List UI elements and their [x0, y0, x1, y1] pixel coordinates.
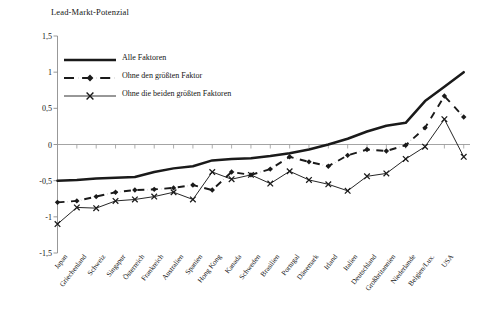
- series-marker-diamond: [384, 148, 389, 153]
- series-line: [58, 72, 464, 181]
- series-marker-diamond: [132, 187, 137, 192]
- series-marker-diamond: [190, 182, 195, 187]
- series-marker-diamond: [55, 200, 60, 205]
- y-axis-tick-label: 1: [48, 68, 52, 77]
- series-line: [58, 119, 464, 224]
- series-canvas: [57, 36, 470, 253]
- series-marker-diamond: [210, 187, 215, 192]
- series-marker-diamond: [268, 166, 273, 171]
- series-marker-cross: [461, 154, 467, 160]
- series-marker-cross: [190, 197, 196, 203]
- series-marker-diamond: [345, 153, 350, 158]
- series-marker-cross: [442, 116, 448, 122]
- y-axis-tick-label: 0: [48, 140, 52, 149]
- y-axis-tick-label: -1: [45, 212, 52, 221]
- series-marker-diamond: [93, 194, 98, 199]
- series-marker-diamond: [152, 187, 157, 192]
- series-marker-cross: [209, 169, 215, 175]
- chart-figure: Lead-Markt-Potenzial 1,510,50-0,5-1-1,5 …: [0, 0, 477, 318]
- plot-area: [57, 36, 470, 253]
- legend-swatch-solid-thick: [62, 52, 118, 68]
- chart-title: Lead-Markt-Potenzial: [51, 7, 129, 17]
- legend-label: Ohne den größten Faktor: [122, 71, 202, 80]
- series-marker-diamond: [461, 114, 466, 119]
- series-marker-diamond: [306, 159, 311, 164]
- y-axis-tick-label: 0,5: [42, 104, 52, 113]
- series-line: [58, 96, 464, 202]
- series-marker-cross: [345, 188, 351, 194]
- series-marker-diamond: [113, 190, 118, 195]
- series-marker-diamond: [74, 198, 79, 203]
- y-axis-tick-label: -0,5: [39, 176, 52, 185]
- y-axis-tick-labels: 1,510,50-0,5-1-1,5: [18, 36, 52, 253]
- legend-label: Ohne die beiden größten Faktoren: [122, 89, 231, 98]
- series-marker-cross: [287, 168, 293, 174]
- legend-label: Alle Faktoren: [122, 53, 166, 62]
- series-marker-cross: [403, 156, 409, 162]
- y-axis-tick-label: 1,5: [42, 32, 52, 41]
- x-axis-tick-labels: JapanGriechenlandSchweizSingapurÖsterrei…: [0, 253, 477, 318]
- legend-swatch-dash-dot-diamond: [62, 70, 118, 86]
- legend-swatch-solid-thin-cross: [62, 88, 118, 104]
- series-marker-diamond: [364, 147, 369, 152]
- series-marker-cross: [267, 181, 273, 187]
